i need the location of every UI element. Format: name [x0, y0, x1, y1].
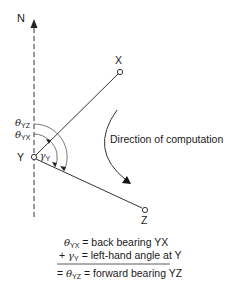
line-yx	[36, 74, 118, 155]
line-yz	[36, 159, 142, 208]
equation-line-3: = θYZ = forward bearing YZ	[57, 268, 182, 280]
theta-yz-label: θYZ	[15, 118, 30, 129]
direction-arc	[104, 110, 126, 180]
north-arrow-icon	[31, 19, 38, 28]
equation-line-2: + γY = left-hand angle at Y	[59, 250, 182, 262]
point-y-label: Y	[17, 152, 24, 163]
point-x-label: X	[115, 55, 122, 66]
point-y	[31, 154, 36, 159]
point-z-label: Z	[141, 215, 147, 226]
north-label: N	[17, 13, 25, 24]
equation-line-1: θYX = back bearing YX	[64, 237, 168, 249]
point-z	[142, 207, 147, 212]
arc-theta-yz	[34, 124, 67, 171]
gamma-y-label: γY	[40, 151, 50, 162]
point-x	[117, 69, 122, 74]
direction-of-computation-label: Direction of computation	[110, 134, 223, 145]
theta-yx-label: θYX	[15, 130, 30, 141]
